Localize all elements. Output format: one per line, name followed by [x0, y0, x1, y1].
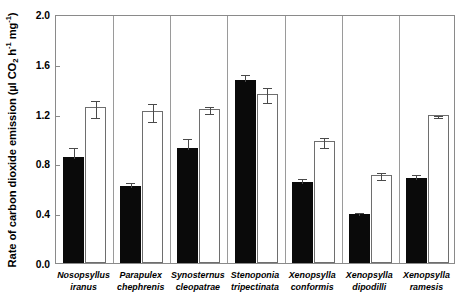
error-bar-cap-top — [434, 116, 443, 117]
y-axis-tick-label: 1.2 — [10, 109, 50, 120]
error-bar-cap-bottom — [91, 118, 100, 119]
plot-area — [55, 15, 455, 264]
y-axis-title-h: h — [6, 49, 18, 59]
error-bar-cap-bottom — [320, 148, 329, 149]
error-bar-stem — [381, 173, 382, 180]
group-separator — [342, 16, 343, 263]
error-bar-cap-top — [263, 88, 272, 89]
bar-filled — [406, 178, 427, 263]
bar-filled — [63, 157, 84, 263]
error-bar-cap-top — [148, 104, 157, 105]
x-axis-category-label-line: chephrenis — [112, 282, 169, 294]
error-bar-cap-bottom — [434, 118, 443, 119]
y-axis-tick-label: 0.0 — [10, 259, 50, 270]
y-axis-tick-mark — [56, 215, 60, 216]
error-bar-cap-top — [183, 139, 192, 140]
x-axis-category-label: Parapulexchephrenis — [112, 270, 169, 293]
error-bar-cap-top — [377, 173, 386, 174]
x-axis-category-label-line: Nosopsyllus — [55, 270, 112, 282]
bar-open — [142, 111, 163, 263]
x-axis-category-label: Xenopsyllaconformis — [284, 270, 341, 293]
x-axis-category-label: Xenopsylladipodilli — [341, 270, 398, 293]
bar-filled — [349, 214, 370, 263]
x-axis-category-label-line: conformis — [284, 282, 341, 294]
error-bar-stem — [324, 138, 325, 148]
y-axis-tick-label: 1.6 — [10, 59, 50, 70]
error-bar-cap-top — [355, 213, 364, 214]
error-bar-cap-top — [91, 101, 100, 102]
error-bar-cap-bottom — [148, 122, 157, 123]
error-bar-stem — [188, 139, 189, 150]
group-separator — [113, 16, 114, 263]
error-bar-stem — [267, 88, 268, 103]
bar-filled — [120, 186, 141, 263]
error-bar-cap-bottom — [377, 180, 386, 181]
y-axis-title-mu: µ — [6, 85, 18, 91]
y-axis-tick-mark — [56, 66, 60, 67]
x-axis-category-label: Stenoponiatripectinata — [226, 270, 283, 293]
group-separator — [285, 16, 286, 263]
x-axis-category-label-line: Xenopsylla — [284, 270, 341, 282]
y-axis-tick-label: 0.4 — [10, 209, 50, 220]
x-axis-category-label: Nosopsyllusiranus — [55, 270, 112, 293]
y-axis-title-sup1: -1 — [4, 42, 13, 49]
bar-filled — [292, 182, 313, 263]
error-bar-cap-top — [298, 179, 307, 180]
x-axis-category-label: Xenopsyllaramesis — [398, 270, 455, 293]
group-separator — [170, 16, 171, 263]
error-bar-cap-top — [205, 107, 214, 108]
y-axis-title-mg: mg — [6, 23, 18, 43]
error-bar-stem — [153, 104, 154, 121]
bar-open — [371, 175, 392, 263]
group-separator — [227, 16, 228, 263]
y-axis-tick-mark — [56, 165, 60, 166]
bar-open — [314, 141, 335, 263]
error-bar-cap-bottom — [263, 103, 272, 104]
x-axis-category-label-line: cleopatrae — [169, 282, 226, 294]
y-axis-title-text: Rate of carbon dioxide emission (µl CO2 … — [6, 13, 18, 268]
bar-filled — [177, 148, 198, 263]
bar-open — [199, 109, 220, 263]
bar-open — [257, 94, 278, 263]
error-bar-cap-top — [320, 138, 329, 139]
x-axis-category-label-line: Xenopsylla — [398, 270, 455, 282]
bar-filled — [235, 80, 256, 263]
x-axis-category-label: Synosternuscleopatrae — [169, 270, 226, 293]
error-bar-cap-top — [241, 75, 250, 76]
x-axis-category-label-line: Xenopsylla — [341, 270, 398, 282]
x-axis-category-label-line: iranus — [55, 282, 112, 294]
bar-chart-figure: Rate of carbon dioxide emission (µl CO2 … — [0, 0, 462, 304]
error-bar-stem — [210, 107, 211, 114]
bar-open — [428, 115, 449, 263]
error-bar-cap-top — [69, 148, 78, 149]
x-axis-category-label-line: tripectinata — [226, 282, 283, 294]
x-axis-category-label-line: Synosternus — [169, 270, 226, 282]
error-bar-stem — [96, 101, 97, 118]
error-bar-cap-bottom — [205, 114, 214, 115]
y-axis-title: Rate of carbon dioxide emission (µl CO2 … — [0, 0, 24, 280]
x-axis-category-label-line: ramesis — [398, 282, 455, 294]
x-axis-category-label-line: Stenoponia — [226, 270, 283, 282]
error-bar-cap-top — [126, 183, 135, 184]
y-axis-tick-label: 0.8 — [10, 159, 50, 170]
error-bar-cap-top — [412, 175, 421, 176]
bar-open — [85, 107, 106, 263]
x-axis-category-label-line: Parapulex — [112, 270, 169, 282]
error-bar-stem — [245, 75, 246, 82]
y-axis-tick-mark — [56, 116, 60, 117]
y-axis-tick-label: 2.0 — [10, 10, 50, 21]
error-bar-stem — [74, 148, 75, 159]
group-separator — [399, 16, 400, 263]
x-axis-category-label-line: dipodilli — [341, 282, 398, 294]
